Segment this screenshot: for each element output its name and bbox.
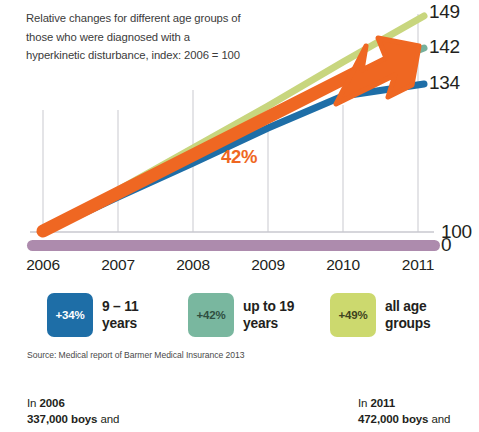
legend: +34% 9 – 11 years +42% up to 19 years +4… bbox=[0, 293, 479, 345]
x-tick-2007: 2007 bbox=[88, 256, 148, 274]
x-tick-2008: 2008 bbox=[163, 256, 223, 274]
legend-item-all-age-groups: +49% all age groups bbox=[330, 293, 431, 337]
legend-label-line1: all age bbox=[385, 298, 431, 315]
legend-badge-34-percent: +34% bbox=[47, 293, 93, 337]
lower-stat-2011: In 2011 472,000 boys and bbox=[358, 395, 450, 427]
legend-label-line1: up to 19 bbox=[243, 298, 294, 315]
legend-badge-49-percent: +49% bbox=[330, 293, 376, 337]
legend-badge-42-percent: +42% bbox=[188, 293, 234, 337]
callout-42-percent: 42% bbox=[221, 146, 257, 168]
lower-stats-band: In 2006 337,000 boys and In 2011 472,000… bbox=[0, 373, 479, 432]
line-chart-plot bbox=[0, 0, 479, 282]
y-tick-134: 134 bbox=[429, 72, 460, 94]
lower-stat-2006-line1: In 2006 bbox=[27, 395, 119, 411]
source-note: Source: Medical report of Barmer Medical… bbox=[27, 350, 244, 360]
timeline-bar bbox=[27, 240, 440, 251]
lower-stat-2006-line2: 337,000 boys and bbox=[27, 411, 119, 427]
lower-stat-2006: In 2006 337,000 boys and bbox=[27, 395, 119, 427]
highlight-arrow-42-percent bbox=[43, 38, 419, 231]
y-tick-0: 0 bbox=[441, 234, 451, 256]
chart-panel: Relative changes for different age group… bbox=[0, 0, 479, 282]
x-tick-2009: 2009 bbox=[238, 256, 298, 274]
x-tick-2010: 2010 bbox=[313, 256, 373, 274]
legend-label-line2: years bbox=[102, 315, 138, 332]
legend-label-line2: groups bbox=[385, 315, 431, 332]
y-tick-149: 149 bbox=[429, 1, 460, 23]
legend-label-line2: years bbox=[243, 315, 294, 332]
legend-label-9-11-years: 9 – 11 years bbox=[102, 298, 138, 332]
x-tick-2006: 2006 bbox=[13, 256, 73, 274]
y-tick-142: 142 bbox=[429, 36, 460, 58]
lower-stat-2011-line2: 472,000 boys and bbox=[358, 411, 450, 427]
legend-label-all-age-groups: all age groups bbox=[385, 298, 431, 332]
legend-item-9-11-years: +34% 9 – 11 years bbox=[47, 293, 138, 337]
legend-item-up-to-19-years: +42% up to 19 years bbox=[188, 293, 294, 337]
legend-label-up-to-19-years: up to 19 years bbox=[243, 298, 294, 332]
lower-stat-2011-line1: In 2011 bbox=[358, 395, 450, 411]
legend-label-line1: 9 – 11 bbox=[102, 298, 138, 315]
x-tick-2011: 2011 bbox=[388, 256, 448, 274]
